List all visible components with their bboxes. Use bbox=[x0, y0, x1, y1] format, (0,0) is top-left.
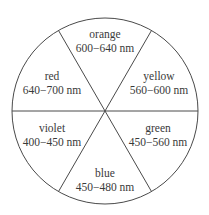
sector-blue: blue 450−480 nm bbox=[76, 167, 135, 193]
sector-name: orange bbox=[89, 28, 120, 41]
sector-yellow: yellow 560−600 nm bbox=[130, 70, 189, 96]
sector-name: blue bbox=[95, 167, 115, 179]
sector-range: 450−560 nm bbox=[129, 136, 188, 148]
sector-name: violet bbox=[39, 122, 66, 134]
sector-name: green bbox=[145, 122, 171, 135]
sector-name: red bbox=[45, 70, 60, 82]
sector-orange: orange 600−640 nm bbox=[76, 28, 135, 54]
sector-range: 450−480 nm bbox=[76, 181, 135, 193]
sector-range: 400−450 nm bbox=[23, 136, 82, 148]
sector-range: 600−640 nm bbox=[76, 42, 135, 54]
sector-range: 560−600 nm bbox=[130, 84, 189, 96]
sector-red: red 640−700 nm bbox=[23, 70, 82, 96]
sector-range: 640−700 nm bbox=[23, 84, 82, 96]
sector-green: green 450−560 nm bbox=[129, 122, 188, 148]
color-wheel-diagram: orange 600−640 nm yellow 560−600 nm gree… bbox=[0, 0, 209, 215]
sector-violet: violet 400−450 nm bbox=[23, 122, 82, 148]
sector-name: yellow bbox=[143, 70, 175, 83]
